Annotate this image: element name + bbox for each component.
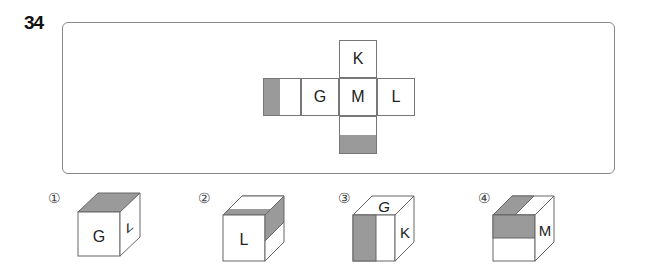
net-face-right: L xyxy=(377,78,415,116)
cube-icon: G L xyxy=(48,190,198,270)
net-face-center: M xyxy=(339,78,377,116)
option-3[interactable]: ③ G K xyxy=(338,190,488,270)
side-label: M xyxy=(539,222,552,239)
cube-icon: M xyxy=(478,190,628,270)
front-label: L xyxy=(240,231,249,248)
option-4[interactable]: ④ M xyxy=(478,190,628,270)
option-2[interactable]: ② L xyxy=(198,190,348,270)
cube-icon: G K xyxy=(338,190,488,270)
option-1[interactable]: ① G L xyxy=(48,190,198,270)
front-label: G xyxy=(93,228,105,245)
top-label: G xyxy=(378,198,390,215)
side-label: K xyxy=(400,224,410,241)
question-number: 34 xyxy=(24,12,43,34)
net-face-bottom xyxy=(339,116,377,154)
net-face-top: K xyxy=(339,40,377,78)
net-face-left: G xyxy=(301,78,339,116)
cube-icon: L xyxy=(198,190,348,270)
net-face-far-left xyxy=(263,78,301,116)
